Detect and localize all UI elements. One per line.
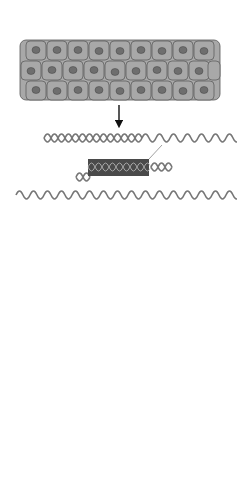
dna-helix-top [44, 134, 237, 142]
oncogene-block [88, 159, 149, 176]
diagram-canvas [0, 0, 237, 498]
dna-helix-left [16, 191, 237, 199]
carcinoma-tissue [20, 40, 220, 100]
dna-oncogene-segment [76, 145, 172, 181]
